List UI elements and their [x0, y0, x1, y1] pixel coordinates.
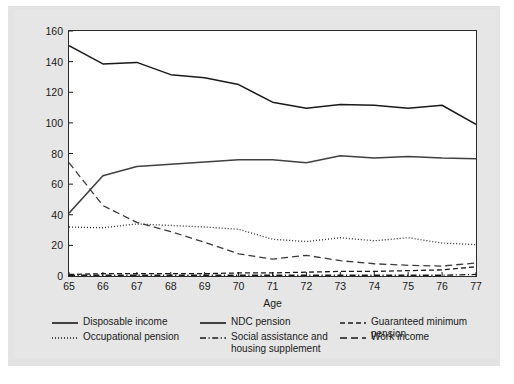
x-tick-label: 72 — [294, 280, 318, 292]
y-axis-tick-labels: 020406080100120140160 — [30, 30, 63, 277]
legend-item[interactable]: NDC pension — [200, 316, 290, 328]
x-tick-label: 70 — [227, 280, 251, 292]
legend-item[interactable]: Work income — [340, 331, 429, 343]
legend-item[interactable]: Occupational pension — [52, 331, 179, 343]
series-line-3 — [69, 224, 476, 245]
legend-swatch-icon — [52, 317, 78, 328]
legend-label: Disposable income — [83, 316, 168, 328]
x-tick-label: 73 — [328, 280, 352, 292]
x-tick-label: 71 — [261, 280, 285, 292]
series-line-2 — [69, 267, 476, 275]
y-tick-label: 160 — [33, 26, 63, 36]
chart-figure: Percent of median disposable income 0204… — [0, 0, 514, 384]
legend-label: NDC pension — [231, 316, 290, 328]
y-tick-label: 140 — [33, 57, 63, 67]
x-tick-label: 76 — [430, 280, 454, 292]
x-axis-tick-labels: 65666768697071727374757677 — [68, 280, 477, 296]
legend-item[interactable]: Disposable income — [52, 316, 168, 328]
x-axis-title: Age — [68, 297, 477, 309]
x-tick-label: 67 — [125, 280, 149, 292]
x-tick-label: 77 — [464, 280, 488, 292]
y-tick-label: 60 — [33, 179, 63, 189]
x-tick-label: 65 — [57, 280, 81, 292]
plot-lines — [69, 31, 476, 276]
series-line-1 — [69, 156, 476, 213]
legend-label: Social assistance and housing supplement — [231, 331, 328, 354]
x-tick-label: 69 — [193, 280, 217, 292]
x-tick-label: 74 — [362, 280, 386, 292]
legend-item[interactable]: Social assistance and housing supplement — [200, 331, 328, 354]
chart-legend: Disposable incomeNDC pensionGuaranteed m… — [52, 316, 492, 362]
legend-swatch-icon — [200, 332, 226, 343]
series-line-0 — [69, 46, 476, 125]
legend-label: Occupational pension — [83, 331, 179, 343]
series-line-5 — [69, 163, 476, 266]
y-tick-label: 20 — [33, 240, 63, 250]
legend-swatch-icon — [200, 317, 226, 328]
y-tick-label: 80 — [33, 149, 63, 159]
y-tick-label: 120 — [33, 87, 63, 97]
legend-swatch-icon — [340, 317, 366, 328]
legend-swatch-icon — [52, 332, 78, 343]
x-tick-label: 66 — [91, 280, 115, 292]
plot-area — [68, 30, 477, 277]
y-tick-label: 40 — [33, 210, 63, 220]
x-tick-label: 75 — [396, 280, 420, 292]
x-tick-label: 68 — [159, 280, 183, 292]
legend-label: Work income — [371, 331, 429, 343]
legend-swatch-icon — [340, 332, 366, 343]
y-tick-label: 100 — [33, 118, 63, 128]
